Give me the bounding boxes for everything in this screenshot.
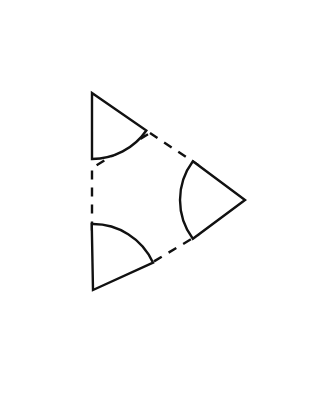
figure-canvas (0, 0, 336, 395)
canvas-background (0, 0, 336, 395)
kanizsa-figure-svg (0, 0, 336, 395)
